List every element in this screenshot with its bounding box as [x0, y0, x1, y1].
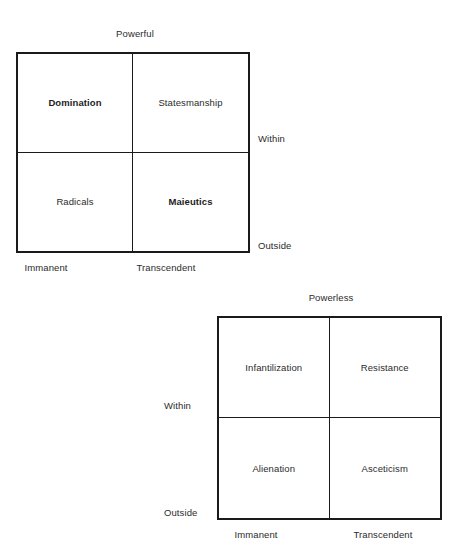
quadrant-statesmanship-label: Statesmanship — [158, 97, 222, 108]
top-matrix-heading: Powerful — [116, 28, 154, 39]
powerless-matrix: Infantilization Resistance Alienation As… — [217, 316, 442, 520]
quadrant-resistance: Resistance — [330, 318, 441, 418]
quadrant-asceticism: Asceticism — [330, 418, 441, 518]
bottom-matrix-axis-within: Within — [164, 400, 191, 411]
quadrant-statesmanship: Statesmanship — [133, 54, 248, 153]
quadrant-domination-label: Domination — [48, 97, 101, 108]
quadrant-infantilization-label: Infantilization — [245, 362, 302, 373]
quadrant-resistance-label: Resistance — [361, 362, 409, 373]
bottom-matrix-axis-transcendent: Transcendent — [354, 529, 413, 540]
top-matrix-axis-outside: Outside — [258, 240, 291, 251]
quadrant-alienation-label: Alienation — [252, 463, 295, 474]
bottom-matrix-heading: Powerless — [309, 292, 354, 303]
quadrant-alienation: Alienation — [219, 418, 330, 518]
bottom-matrix-axis-immanent: Immanent — [234, 529, 277, 540]
quadrant-radicals: Radicals — [18, 153, 133, 252]
quadrant-domination: Domination — [18, 54, 133, 153]
quadrant-asceticism-label: Asceticism — [362, 463, 408, 474]
quadrant-maieutics-label: Maieutics — [168, 196, 212, 207]
top-matrix-axis-within: Within — [258, 133, 285, 144]
powerful-matrix: Domination Statesmanship Radicals Maieut… — [16, 52, 250, 253]
bottom-matrix-axis-outside: Outside — [164, 507, 197, 518]
quadrant-infantilization: Infantilization — [219, 318, 330, 418]
top-matrix-axis-immanent: Immanent — [24, 262, 67, 273]
top-matrix-axis-transcendent: Transcendent — [137, 262, 196, 273]
diagram-canvas: Powerful Domination Statesmanship Radica… — [0, 0, 468, 550]
quadrant-radicals-label: Radicals — [56, 196, 93, 207]
quadrant-maieutics: Maieutics — [133, 153, 248, 252]
